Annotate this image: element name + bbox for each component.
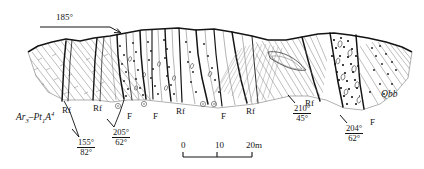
dip-value: 62° [112,138,130,147]
fault-label-f-5: F [221,112,226,121]
unit-label-basement: Ar3–Pt1A4 [16,113,54,123]
fault-plane-f-3b [126,34,132,100]
fault-label-rf-4: Rf [176,107,185,116]
bearing-arrow [40,27,121,33]
clast-dots-far-right [369,45,397,95]
fault-plane-rf-2 [93,38,97,100]
scale-tick-label-1: 10 [215,140,224,150]
fault-label-f-3: F [153,112,158,121]
outcrop-outline [28,52,412,110]
dip-tick-4 [340,115,347,123]
fault-plane-f-5 [152,30,153,99]
strike-value: 204° [345,124,363,134]
dip-tick-2 [107,119,114,127]
strike-value: 210° [293,104,311,114]
dip-value: 82° [77,148,95,157]
fault-plane-f-7 [179,28,182,102]
fault-label-rf-0: Rf [62,106,71,115]
scale-tick-label-0: 0 [181,140,186,150]
fault-plane-f-9 [214,30,222,106]
fault-plane-f-8 [196,30,208,104]
dip-symbol-4: 204°62° [345,124,363,143]
dip-symbol-3: 210°45° [293,104,311,123]
sheared-fabric-fan [214,44,282,102]
fault-plane-rf-1 [62,41,66,101]
fault-plane-f-10 [232,32,247,103]
fault-plane-f-4 [140,31,146,99]
dip-symbol-2: 205°62° [112,128,130,147]
fault-plane-rf-13 [330,33,343,107]
ground-surface-line [28,28,412,52]
foliation-hatching-left [20,37,152,112]
unit-label-conglomerate: Qbb [381,90,397,100]
dip-symbol-1: 155°82° [77,138,95,157]
cross-section-drawing [0,0,424,169]
dip-value: 45° [293,114,311,123]
strike-value: 155° [77,138,95,148]
scale-tick-label-2: 20m [246,140,262,150]
bearing-label: 185° [56,13,73,22]
fault-label-f-2: F [127,112,132,121]
geological-cross-section-figure: 185° Ar3–Pt1A4 Qbb RfRfFFRfFRfRfF 155°82… [0,0,424,169]
fault-label-rf-1: Rf [93,104,102,113]
dip-value: 62° [345,134,363,143]
scale-bar [183,152,252,157]
fault-label-f-8: F [370,118,375,127]
strike-value: 205° [112,128,130,138]
fault-label-rf-6: Rf [246,107,255,116]
fault-plane-f-3 [117,35,124,99]
